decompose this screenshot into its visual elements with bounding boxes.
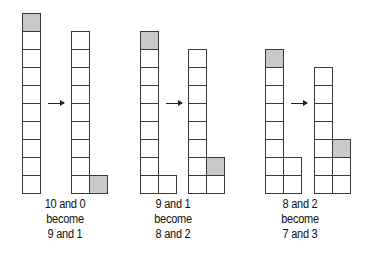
caption-group-1: 10 and 0 become 9 and 1	[17, 197, 114, 242]
block	[71, 175, 90, 194]
block	[314, 139, 333, 158]
arrow-right-icon	[291, 103, 307, 104]
block	[265, 67, 284, 86]
moved-block	[89, 175, 108, 194]
block	[265, 85, 284, 104]
block	[71, 139, 90, 158]
caption-line: become	[252, 212, 349, 227]
block	[188, 67, 207, 86]
block	[140, 49, 159, 68]
block	[140, 85, 159, 104]
block	[314, 121, 333, 140]
moved-block	[265, 49, 284, 68]
moved-block	[140, 31, 159, 50]
caption-line: become	[17, 212, 114, 227]
block	[140, 175, 159, 194]
block	[22, 121, 41, 140]
block	[158, 175, 177, 194]
block	[71, 103, 90, 122]
block	[188, 157, 207, 176]
block	[265, 175, 284, 194]
block	[71, 31, 90, 50]
block	[22, 49, 41, 68]
block	[140, 157, 159, 176]
block	[283, 157, 302, 176]
block	[71, 121, 90, 140]
block	[22, 85, 41, 104]
caption-line: 9 and 1	[125, 197, 222, 212]
block	[22, 139, 41, 158]
block	[265, 121, 284, 140]
block	[22, 31, 41, 50]
block	[283, 175, 302, 194]
arrow-right-icon	[166, 103, 182, 104]
block	[22, 157, 41, 176]
block	[314, 157, 333, 176]
moved-block	[22, 13, 41, 32]
block	[22, 67, 41, 86]
block	[22, 103, 41, 122]
caption-line: 8 and 2	[125, 227, 222, 242]
caption-line: 8 and 2	[252, 197, 349, 212]
block	[265, 103, 284, 122]
block	[71, 67, 90, 86]
block	[314, 85, 333, 104]
block	[140, 139, 159, 158]
block	[314, 67, 333, 86]
block	[71, 157, 90, 176]
block	[332, 175, 351, 194]
block	[188, 121, 207, 140]
caption-group-2: 9 and 1 become 8 and 2	[125, 197, 222, 242]
block	[188, 49, 207, 68]
moved-block	[206, 157, 225, 176]
block	[140, 67, 159, 86]
block	[140, 121, 159, 140]
block	[188, 103, 207, 122]
caption-group-3: 8 and 2 become 7 and 3	[252, 197, 349, 242]
caption-line: 7 and 3	[252, 227, 349, 242]
block	[265, 139, 284, 158]
block	[314, 175, 333, 194]
block	[140, 103, 159, 122]
block	[332, 157, 351, 176]
block	[206, 175, 225, 194]
block	[188, 85, 207, 104]
arrow-right-icon	[48, 103, 64, 104]
block	[188, 175, 207, 194]
block	[71, 49, 90, 68]
block	[265, 157, 284, 176]
caption-line: 9 and 1	[17, 227, 114, 242]
block	[314, 103, 333, 122]
caption-line: 10 and 0	[17, 197, 114, 212]
moved-block	[332, 139, 351, 158]
block	[188, 139, 207, 158]
caption-line: become	[125, 212, 222, 227]
block	[71, 85, 90, 104]
block	[22, 175, 41, 194]
